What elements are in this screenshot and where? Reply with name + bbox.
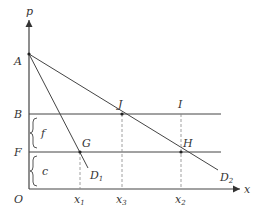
- y-axis-label: p: [26, 5, 33, 18]
- label-j: J: [116, 98, 123, 111]
- label-g: G: [82, 137, 91, 150]
- point-j: [120, 112, 123, 115]
- x-axis-label: x: [244, 183, 251, 196]
- brace-c-label: c: [42, 165, 48, 178]
- point-h: [179, 150, 182, 153]
- label-b: B: [13, 108, 22, 121]
- label-d2: D2: [219, 171, 234, 185]
- demand-curve-d2: [29, 54, 218, 170]
- brace-f: [30, 118, 37, 148]
- brace-c: [30, 156, 37, 186]
- label-f: F: [13, 146, 22, 159]
- tick-x3: x3: [116, 193, 127, 207]
- tick-x1: x1: [74, 193, 85, 207]
- point-g: [78, 150, 81, 153]
- point-a: [27, 52, 30, 55]
- label-h: H: [182, 137, 193, 150]
- brace-f-label: f: [40, 127, 47, 140]
- label-i: I: [177, 98, 183, 111]
- label-a: A: [13, 55, 22, 68]
- tick-x2: x2: [175, 193, 186, 207]
- label-d1: D1: [89, 169, 103, 183]
- diagram-canvas: p x O A B F f c J I G H D1 D2 x1 x3 x2: [0, 0, 261, 215]
- origin-label: O: [14, 193, 23, 206]
